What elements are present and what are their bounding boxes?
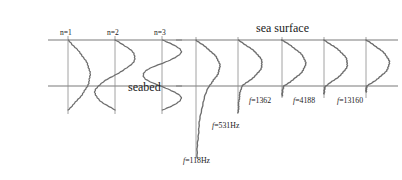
mode-curve-f13160 bbox=[366, 40, 390, 92]
mode-label-n3: n=3 bbox=[154, 28, 166, 37]
freq-label-1362: f=1362 bbox=[249, 96, 271, 105]
mode-label-n1: n=1 bbox=[60, 28, 72, 37]
mode-curve-n1 bbox=[68, 40, 90, 110]
freq-label-531: f=531Hz bbox=[212, 121, 240, 130]
mode-label-n2: n=2 bbox=[107, 28, 119, 37]
seabed-label: seabed bbox=[128, 80, 161, 94]
mode-curve-f1362 bbox=[282, 40, 306, 96]
figure-canvas: n=1n=2n=3f=118Hzf=531Hzf=1362f=4188f=131… bbox=[0, 0, 402, 180]
freq-label-118: f=118Hz bbox=[183, 156, 211, 165]
freq-label-4188: f=4188 bbox=[293, 96, 315, 105]
acoustic-mode-shape-figure: n=1n=2n=3f=118Hzf=531Hzf=1362f=4188f=131… bbox=[0, 0, 402, 180]
freq-label-13160: f=13160 bbox=[337, 96, 363, 105]
sea-surface-label: sea surface bbox=[256, 21, 309, 35]
mode-curve-f118 bbox=[196, 40, 220, 158]
